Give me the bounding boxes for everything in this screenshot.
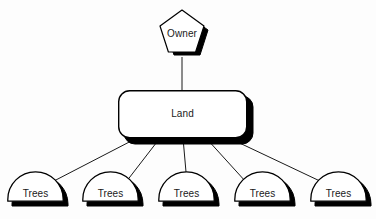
- node-trees-4[interactable]: Trees: [234, 171, 296, 209]
- semicircle-shape: [7, 171, 69, 209]
- node-trees-1[interactable]: Trees: [7, 171, 69, 209]
- semicircle-shape: [310, 171, 372, 209]
- node-land[interactable]: Land: [118, 90, 254, 145]
- diagram-canvas: Owner Land Trees Trees: [0, 0, 376, 219]
- node-owner[interactable]: Owner: [159, 9, 205, 57]
- node-trees-5[interactable]: Trees: [310, 171, 372, 209]
- node-trees-2[interactable]: Trees: [82, 171, 144, 209]
- semicircle-shape: [158, 171, 220, 209]
- node-trees-3[interactable]: Trees: [158, 171, 220, 209]
- semicircle-shape: [234, 171, 296, 209]
- semicircle-shape: [82, 171, 144, 209]
- pentagon-shape: [159, 9, 205, 57]
- node-layer: Owner Land Trees Trees: [0, 0, 376, 219]
- rounded-rectangle-shape: [118, 90, 254, 145]
